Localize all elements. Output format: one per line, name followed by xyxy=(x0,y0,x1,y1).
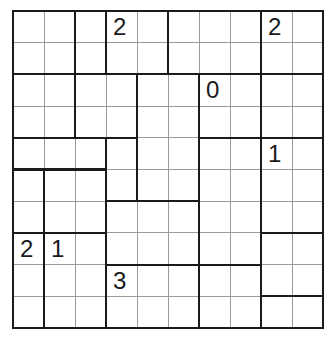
grid-cell[interactable] xyxy=(75,201,107,233)
grid-cell[interactable] xyxy=(137,233,169,265)
grid-cell[interactable] xyxy=(168,138,200,170)
grid-cell[interactable] xyxy=(75,43,107,75)
clue-number: 2 xyxy=(20,237,33,261)
grid-cell[interactable] xyxy=(199,138,231,170)
grid-cell[interactable] xyxy=(230,201,262,233)
grid-cell[interactable] xyxy=(13,11,45,43)
grid-cell[interactable] xyxy=(292,74,324,106)
grid-cell[interactable] xyxy=(75,106,107,138)
grid-cell[interactable] xyxy=(137,170,169,202)
grid-cell[interactable] xyxy=(137,265,169,297)
clue-number: 0 xyxy=(206,78,219,102)
grid-cell[interactable] xyxy=(137,11,169,43)
grid-cell[interactable] xyxy=(230,170,262,202)
grid-cell[interactable] xyxy=(75,74,107,106)
grid-cell[interactable] xyxy=(13,43,45,75)
grid-cell[interactable] xyxy=(199,43,231,75)
grid-cell[interactable] xyxy=(13,138,45,170)
grid-cell[interactable] xyxy=(230,43,262,75)
grid-cell[interactable] xyxy=(168,233,200,265)
grid-cell[interactable] xyxy=(106,138,138,170)
grid-cell[interactable] xyxy=(230,138,262,170)
grid-cell[interactable] xyxy=(292,138,324,170)
grid-cell[interactable] xyxy=(44,74,76,106)
grid-cell[interactable] xyxy=(75,296,107,328)
grid-cell[interactable] xyxy=(75,170,107,202)
grid-cell[interactable] xyxy=(44,170,76,202)
grid-cell[interactable] xyxy=(13,201,45,233)
grid-cell[interactable] xyxy=(106,296,138,328)
clue-number: 3 xyxy=(113,269,126,293)
grid-cell[interactable] xyxy=(168,296,200,328)
grid-cell[interactable] xyxy=(75,265,107,297)
grid-cell[interactable] xyxy=(199,106,231,138)
clue-number: 1 xyxy=(51,237,64,261)
grid-cell[interactable] xyxy=(168,106,200,138)
grid-cell[interactable] xyxy=(168,11,200,43)
grid-cell[interactable] xyxy=(13,265,45,297)
grid-cell[interactable] xyxy=(106,43,138,75)
grid-cell[interactable] xyxy=(44,43,76,75)
grid-cell[interactable] xyxy=(137,296,169,328)
grid-cell[interactable] xyxy=(292,170,324,202)
grid-cell[interactable] xyxy=(261,74,293,106)
grid-cell[interactable] xyxy=(261,201,293,233)
grid-cell[interactable] xyxy=(199,201,231,233)
grid-cell[interactable] xyxy=(261,170,293,202)
grid-cell[interactable] xyxy=(13,106,45,138)
grid-cell[interactable] xyxy=(292,43,324,75)
grid-cell[interactable] xyxy=(168,74,200,106)
grid-cell[interactable] xyxy=(292,106,324,138)
grid-cell[interactable] xyxy=(106,106,138,138)
grid-cell[interactable] xyxy=(106,233,138,265)
grid-cell[interactable] xyxy=(137,106,169,138)
grid-cell[interactable] xyxy=(199,265,231,297)
grid-cell[interactable] xyxy=(137,43,169,75)
grid-cell[interactable] xyxy=(199,11,231,43)
grid-cell[interactable] xyxy=(137,74,169,106)
grid-cell[interactable] xyxy=(230,74,262,106)
grid-cell[interactable] xyxy=(44,138,76,170)
grid-cell[interactable] xyxy=(168,265,200,297)
grid-cell[interactable] xyxy=(292,265,324,297)
clue-number: 1 xyxy=(268,142,281,166)
grid-cell[interactable] xyxy=(261,265,293,297)
grid-cell[interactable] xyxy=(261,233,293,265)
grid-cell[interactable] xyxy=(44,296,76,328)
grid-cell[interactable] xyxy=(44,106,76,138)
grid-cell[interactable] xyxy=(199,296,231,328)
grid-cell[interactable] xyxy=(292,201,324,233)
grid-cell[interactable] xyxy=(137,138,169,170)
grid-cell[interactable] xyxy=(230,106,262,138)
grid-cell[interactable] xyxy=(261,43,293,75)
grid-cell[interactable] xyxy=(137,201,169,233)
grid-cell[interactable] xyxy=(75,138,107,170)
grid-cell[interactable] xyxy=(230,11,262,43)
grid-cell[interactable] xyxy=(13,170,45,202)
grid-cell[interactable] xyxy=(106,74,138,106)
grid-cell[interactable] xyxy=(230,296,262,328)
grid-cell[interactable] xyxy=(199,233,231,265)
grid-cell[interactable] xyxy=(75,11,107,43)
grid-cell[interactable] xyxy=(13,74,45,106)
grid-cell[interactable] xyxy=(106,170,138,202)
grid-cell[interactable] xyxy=(292,296,324,328)
grid-cell[interactable] xyxy=(292,11,324,43)
puzzle-board: 2201213 xyxy=(13,11,323,328)
grid-cell[interactable] xyxy=(199,170,231,202)
grid-cell[interactable] xyxy=(168,43,200,75)
grid-cell[interactable] xyxy=(230,233,262,265)
grid-cell[interactable] xyxy=(13,296,45,328)
grid-cell[interactable] xyxy=(168,201,200,233)
grid-cell[interactable] xyxy=(44,11,76,43)
grid-cell[interactable] xyxy=(261,296,293,328)
grid-cell[interactable] xyxy=(106,201,138,233)
grid-cell[interactable] xyxy=(292,233,324,265)
grid-cell[interactable] xyxy=(230,265,262,297)
grid-cell[interactable] xyxy=(261,106,293,138)
clue-number: 2 xyxy=(113,15,126,39)
grid-cell[interactable] xyxy=(75,233,107,265)
grid-cell[interactable] xyxy=(44,201,76,233)
grid-cell[interactable] xyxy=(44,265,76,297)
grid-cell[interactable] xyxy=(168,170,200,202)
